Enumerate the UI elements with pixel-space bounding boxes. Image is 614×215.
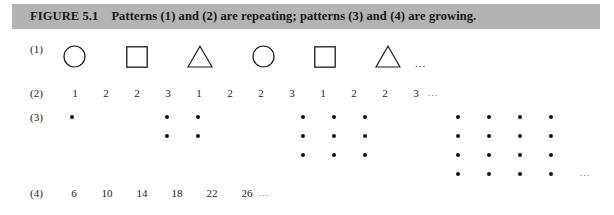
row-2-cell: 1	[65, 87, 85, 99]
row-4-cell: 26	[237, 187, 257, 199]
dot	[196, 115, 200, 119]
dot	[549, 172, 553, 176]
figure-caption-text: Patterns (1) and (2) are repeating; patt…	[111, 9, 476, 23]
row-label-1: (1)	[30, 43, 43, 55]
row-1-ellipsis: ...	[415, 57, 426, 69]
row-4-cell: 6	[64, 187, 84, 199]
shape-circle	[63, 45, 86, 68]
dot	[332, 153, 336, 157]
dot	[363, 153, 367, 157]
row-2-cell: 2	[220, 87, 240, 99]
dot	[487, 172, 491, 176]
row-4-cell: 14	[132, 187, 152, 199]
shape-circle	[252, 45, 275, 68]
dot	[518, 172, 522, 176]
figure-number: FIGURE 5.1	[30, 9, 98, 23]
row-label-2: (2)	[30, 87, 43, 99]
row-2-cell: 2	[375, 87, 395, 99]
row-4-cell: 22	[202, 187, 222, 199]
row-2-cell: 1	[313, 87, 333, 99]
row-2-cell: 2	[127, 87, 147, 99]
dot	[301, 115, 305, 119]
dot	[165, 134, 169, 138]
dot	[332, 134, 336, 138]
dot	[518, 134, 522, 138]
row-2-cell: 2	[344, 87, 364, 99]
dot	[70, 115, 74, 119]
dot	[487, 153, 491, 157]
shape-triangle	[187, 45, 213, 68]
dot	[363, 134, 367, 138]
row-2-ellipsis: ...	[428, 88, 438, 98]
dot	[549, 115, 553, 119]
dot	[487, 115, 491, 119]
dot	[332, 115, 336, 119]
dot	[196, 134, 200, 138]
row-4-cell: 10	[97, 187, 117, 199]
dot	[301, 153, 305, 157]
figure-caption: FIGURE 5.1Patterns (1) and (2) are repea…	[12, 9, 476, 24]
shape-square	[126, 46, 148, 68]
row-4-ellipsis: ...	[259, 188, 269, 198]
dot	[518, 153, 522, 157]
figure-body: (1) ... (2) 1 2 2 3 1 2 2 3 1 2 2 3 ... …	[0, 29, 614, 215]
dot	[165, 115, 169, 119]
row-3-ellipsis: ...	[580, 168, 590, 178]
row-label-4: (4)	[30, 187, 43, 199]
shape-square	[314, 46, 336, 68]
figure-caption-bar: FIGURE 5.1Patterns (1) and (2) are repea…	[12, 4, 600, 29]
row-2-cell: 2	[251, 87, 271, 99]
shape-triangle	[375, 45, 401, 68]
dot	[487, 134, 491, 138]
row-2-cell: 3	[406, 87, 426, 99]
dot	[518, 115, 522, 119]
row-2-cell: 2	[96, 87, 116, 99]
dot	[456, 153, 460, 157]
row-label-3: (3)	[30, 111, 43, 123]
dot	[363, 115, 367, 119]
dot	[456, 115, 460, 119]
row-2-cell: 1	[189, 87, 209, 99]
row-4-cell: 18	[167, 187, 187, 199]
dot	[456, 134, 460, 138]
row-2-cell: 3	[282, 87, 302, 99]
dot	[456, 172, 460, 176]
dot	[549, 153, 553, 157]
dot	[301, 134, 305, 138]
dot	[549, 134, 553, 138]
row-2-cell: 3	[158, 87, 178, 99]
